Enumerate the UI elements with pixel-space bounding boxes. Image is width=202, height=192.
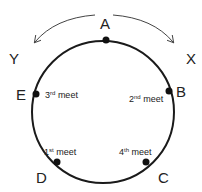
point-a-dot — [103, 37, 110, 44]
direction-x-label: X — [186, 51, 196, 66]
arrow-x-direction — [113, 15, 173, 42]
circular-track-diagram: A B C D E Y X 1st meet 2nd meet 3rd meet… — [0, 0, 202, 192]
first-meet-label: 1st meet — [44, 148, 76, 157]
point-a-label: A — [100, 16, 110, 31]
point-d-dot — [54, 159, 61, 166]
arrow-y-direction — [35, 15, 95, 42]
direction-y-label: Y — [9, 51, 19, 66]
point-c-dot — [143, 159, 150, 166]
point-e-label: E — [16, 87, 26, 102]
second-meet-label: 2nd meet — [129, 95, 163, 104]
point-b-label: B — [176, 84, 186, 99]
track-circle — [32, 41, 174, 183]
point-e-dot — [33, 91, 40, 98]
point-b-dot — [166, 88, 173, 95]
fourth-meet-label: 4th meet — [119, 148, 152, 157]
point-d-label: D — [36, 170, 47, 185]
third-meet-label: 3rd meet — [45, 91, 78, 100]
point-c-label: C — [158, 170, 169, 185]
